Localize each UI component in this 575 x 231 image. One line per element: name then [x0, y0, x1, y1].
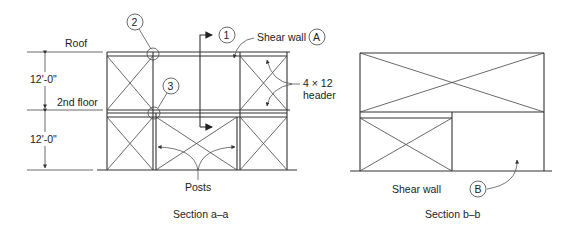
lower-height-label: 12'-0" — [30, 133, 57, 145]
shear-wall-a-tag: A — [313, 31, 320, 43]
section-aa-caption: Section a–a — [173, 208, 229, 220]
posts-label: Posts — [185, 181, 211, 193]
callout-1-label: 1 — [224, 29, 230, 41]
upper-height-label: 12'-0" — [30, 73, 57, 85]
second-floor-label: 2nd floor — [57, 96, 98, 108]
section-bb-caption: Section b–b — [425, 208, 481, 220]
callout-2-label: 2 — [132, 16, 138, 28]
section-bb: Shear wall B Section b–b — [350, 53, 552, 220]
roof-label: Roof — [65, 37, 87, 49]
shear-wall-b-tag: B — [475, 183, 482, 195]
structural-diagram: 12'-0" 12'-0" Roof 2nd floor — [0, 0, 575, 231]
shear-wall-b-label: Shear wall — [392, 183, 441, 195]
shear-wall-a-label: Shear wall — [257, 31, 306, 43]
header-label: header — [303, 89, 336, 101]
callout-3-label: 3 — [168, 80, 174, 92]
section-aa: 12'-0" 12'-0" Roof 2nd floor — [27, 14, 336, 220]
header-size-label: 4 × 12 — [303, 77, 333, 89]
